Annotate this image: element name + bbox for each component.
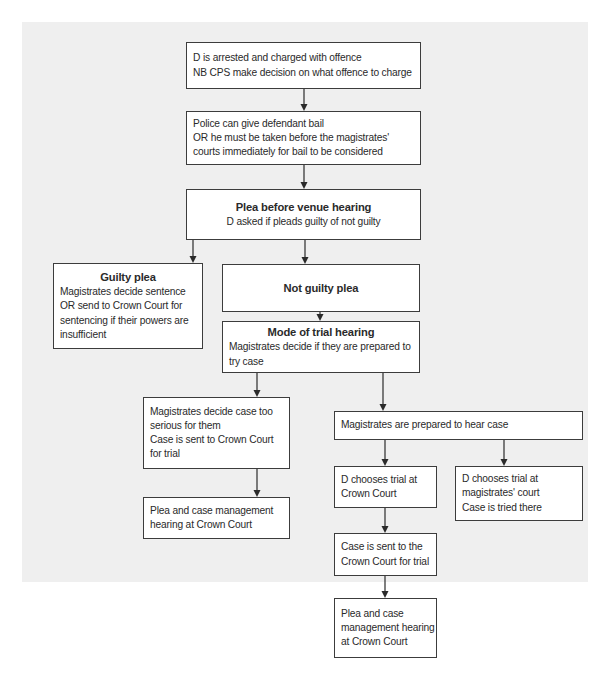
node-sent-to-crown-line-1: Case is sent to the xyxy=(341,540,430,554)
node-not-guilty-plea: Not guilty plea xyxy=(222,264,420,312)
node-chooses-crown: D chooses trial at Crown Court xyxy=(334,466,437,508)
node-guilty-plea-line-2: OR send to Crown Court for xyxy=(60,299,196,313)
node-mode-of-trial: Mode of trial hearing Magistrates decide… xyxy=(222,321,420,373)
node-too-serious-line-4: for trial xyxy=(150,447,283,461)
node-pcmh-left-line-2: hearing at Crown Court xyxy=(150,518,283,532)
node-not-guilty-plea-title: Not guilty plea xyxy=(229,281,413,296)
node-plea-before-venue-title: Plea before venue hearing xyxy=(193,200,414,215)
node-plea-before-venue: Plea before venue hearing D asked if ple… xyxy=(186,189,421,240)
node-guilty-plea-line-1: Magistrates decide sentence xyxy=(60,285,196,299)
node-pcmh-left-line-1: Plea and case management xyxy=(150,504,283,518)
node-chooses-crown-line-1: D chooses trial at xyxy=(341,473,430,487)
node-pcmh-right-line-1: Plea and case xyxy=(341,607,430,621)
node-pcmh-left: Plea and case management hearing at Crow… xyxy=(143,497,290,539)
node-pcmh-right-line-2: management hearing xyxy=(341,621,430,635)
node-arrest: D is arrested and charged with offence N… xyxy=(186,42,421,89)
node-plea-before-venue-line-1: D asked if pleads guilty of not guilty xyxy=(193,215,414,229)
node-pcmh-right: Plea and case management hearing at Crow… xyxy=(334,598,437,658)
node-chooses-magistrates-line-1: D chooses trial at xyxy=(462,472,576,486)
node-sent-to-crown: Case is sent to the Crown Court for tria… xyxy=(334,533,437,576)
node-guilty-plea-title: Guilty plea xyxy=(60,270,196,285)
node-guilty-plea-line-3: sentencing if their powers are xyxy=(60,314,196,328)
node-pcmh-right-line-3: at Crown Court xyxy=(341,635,430,649)
node-bail-line-3: courts immediately for bail to be consid… xyxy=(193,145,414,159)
node-prepared: Magistrates are prepared to hear case xyxy=(334,411,583,440)
node-arrest-line-2: NB CPS make decision on what offence to … xyxy=(193,66,414,80)
node-too-serious: Magistrates decide case too serious for … xyxy=(143,397,290,469)
node-too-serious-line-1: Magistrates decide case too xyxy=(150,405,283,419)
node-chooses-magistrates-line-3: Case is tried there xyxy=(462,501,576,515)
node-bail-line-1: Police can give defendant bail xyxy=(193,117,414,131)
node-sent-to-crown-line-2: Crown Court for trial xyxy=(341,555,430,569)
node-chooses-magistrates-line-2: magistrates' court xyxy=(462,486,576,500)
node-mode-of-trial-line-1: Magistrates decide if they are prepared … xyxy=(229,340,413,354)
node-guilty-plea: Guilty plea Magistrates decide sentence … xyxy=(53,263,203,349)
node-prepared-line-1: Magistrates are prepared to hear case xyxy=(341,418,576,432)
node-too-serious-line-3: Case is sent to Crown Court xyxy=(150,433,283,447)
node-mode-of-trial-title: Mode of trial hearing xyxy=(229,325,413,340)
node-chooses-crown-line-2: Crown Court xyxy=(341,487,430,501)
node-bail-line-2: OR he must be taken before the magistrat… xyxy=(193,131,414,145)
node-too-serious-line-2: serious for them xyxy=(150,419,283,433)
node-arrest-line-1: D is arrested and charged with offence xyxy=(193,51,414,65)
node-chooses-magistrates: D chooses trial at magistrates' court Ca… xyxy=(455,466,583,521)
node-mode-of-trial-line-2: try case xyxy=(229,355,413,369)
node-guilty-plea-line-4: insufficient xyxy=(60,328,196,342)
node-bail: Police can give defendant bail OR he mus… xyxy=(186,111,421,165)
